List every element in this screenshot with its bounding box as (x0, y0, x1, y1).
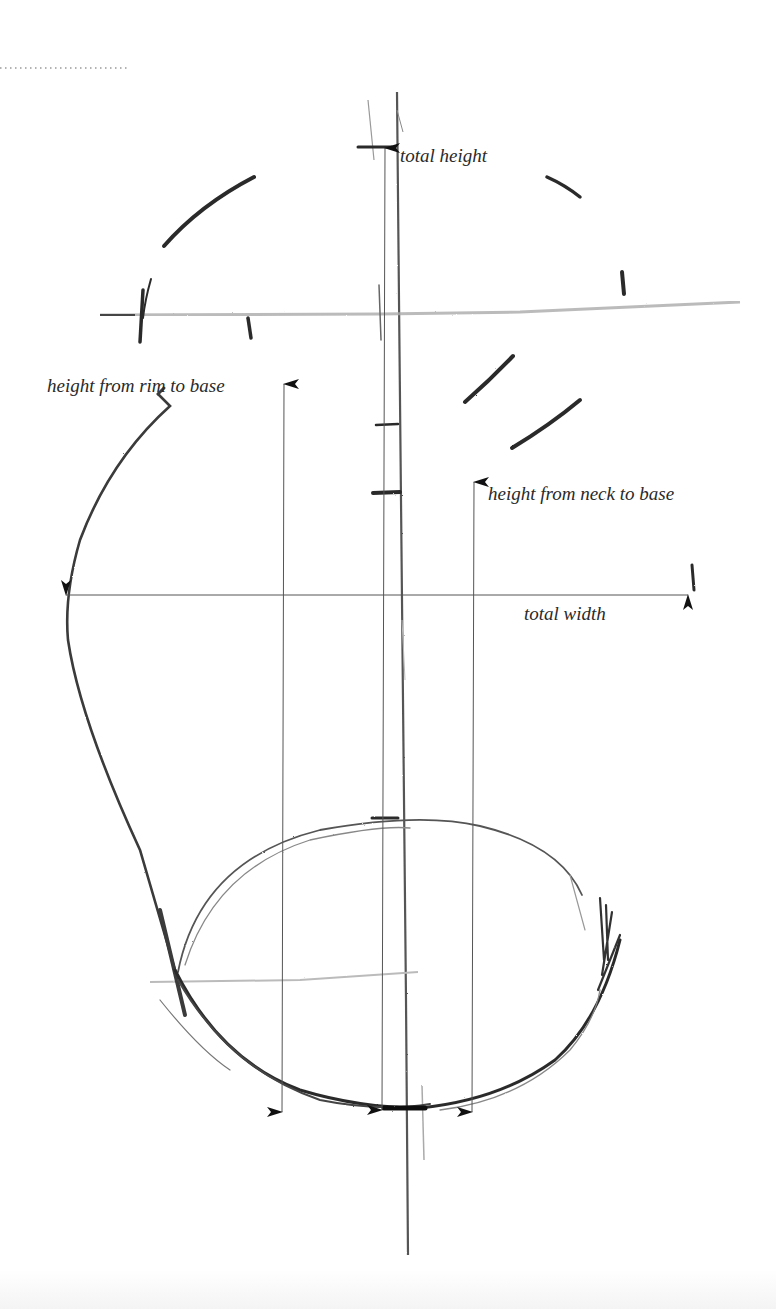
base-guide-line (150, 972, 418, 982)
total-height-arrow (382, 148, 385, 1110)
center-axis (368, 92, 424, 1255)
bowl-ellipse (160, 820, 620, 1110)
vase-measurement-diagram (0, 0, 776, 1309)
label-total-height: total height (400, 146, 487, 165)
page-bottom-edge (0, 1269, 776, 1309)
measurement-arrows (66, 148, 688, 1112)
pot-profile (67, 388, 185, 1015)
label-height-rim-to-base: height from rim to base (47, 376, 225, 395)
rim-guide-line (100, 302, 740, 315)
neck-to-base-arrow (472, 482, 474, 1112)
label-total-width: total width (524, 604, 606, 623)
rim-to-base-arrow (282, 384, 284, 1112)
label-height-neck-to-base: height from neck to base (488, 484, 674, 503)
